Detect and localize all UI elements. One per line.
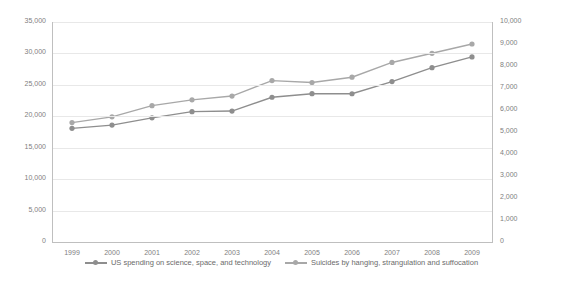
series-point[interactable]: [389, 60, 394, 65]
series-line: [72, 44, 472, 123]
series-point[interactable]: [309, 91, 314, 96]
x-axis-line: [52, 242, 492, 243]
y-axis-right-tick: 5,000: [500, 127, 540, 134]
legend-item-suicides[interactable]: Suicides by hanging, strangulation and s…: [285, 258, 478, 267]
x-axis-tick: 2006: [332, 249, 372, 256]
y-axis-left-tick: 0: [6, 237, 46, 244]
gridline: [52, 211, 492, 212]
y-axis-right-tick: 1,000: [500, 215, 540, 222]
gridline: [52, 85, 492, 86]
series-point[interactable]: [429, 65, 434, 70]
x-axis-tick: 2009: [452, 249, 492, 256]
series-point[interactable]: [349, 75, 354, 80]
series-lines: [52, 22, 492, 242]
series-point[interactable]: [189, 109, 194, 114]
gridline: [52, 116, 492, 117]
y-axis-left-line: [52, 22, 53, 243]
y-axis-left-tick: 5,000: [6, 206, 46, 213]
series-point[interactable]: [469, 41, 474, 46]
series-point[interactable]: [269, 78, 274, 83]
x-axis-tick: 2001: [132, 249, 172, 256]
series-point[interactable]: [69, 120, 74, 125]
legend-item-spending[interactable]: US spending on science, space, and techn…: [85, 258, 271, 267]
series-point[interactable]: [69, 126, 74, 131]
y-axis-left-tick: 10,000: [6, 174, 46, 181]
y-axis-right-tick: 10,000: [500, 17, 540, 24]
y-axis-left-tick: 20,000: [6, 111, 46, 118]
legend-label-spending: US spending on science, space, and techn…: [111, 258, 271, 267]
chart-container: 05,00010,00015,00020,00025,00030,00035,0…: [0, 0, 563, 282]
y-axis-right-tick: 9,000: [500, 39, 540, 46]
gridline: [52, 53, 492, 54]
legend-label-suicides: Suicides by hanging, strangulation and s…: [311, 258, 478, 267]
x-axis-tick: 2004: [252, 249, 292, 256]
y-axis-right-tick: 0: [500, 237, 540, 244]
y-axis-right-tick: 7,000: [500, 83, 540, 90]
y-axis-left-tick: 15,000: [6, 143, 46, 150]
gridline: [52, 22, 492, 23]
gridline: [52, 148, 492, 149]
x-axis-tick: 2008: [412, 249, 452, 256]
y-axis-right-tick: 4,000: [500, 149, 540, 156]
x-axis-tick: 2002: [172, 249, 212, 256]
y-axis-left-tick: 25,000: [6, 80, 46, 87]
chart-legend: US spending on science, space, and techn…: [0, 258, 563, 267]
series-point[interactable]: [469, 54, 474, 59]
x-axis-tick: 2007: [372, 249, 412, 256]
series-point[interactable]: [149, 103, 154, 108]
series-point[interactable]: [229, 93, 234, 98]
gridline: [52, 179, 492, 180]
legend-marker-spending: [85, 258, 107, 267]
x-axis-tick: 2003: [212, 249, 252, 256]
y-axis-left-tick: 35,000: [6, 17, 46, 24]
y-axis-right-tick: 3,000: [500, 171, 540, 178]
series-point[interactable]: [349, 91, 354, 96]
series-point[interactable]: [389, 79, 394, 84]
y-axis-right-tick: 2,000: [500, 193, 540, 200]
y-axis-right-tick: 8,000: [500, 61, 540, 68]
series-point[interactable]: [189, 97, 194, 102]
x-axis-tick: 1999: [52, 249, 92, 256]
y-axis-left-tick: 30,000: [6, 48, 46, 55]
x-axis-tick: 2000: [92, 249, 132, 256]
plot-area: 05,00010,00015,00020,00025,00030,00035,0…: [52, 22, 492, 242]
legend-marker-suicides: [285, 258, 307, 267]
series-point[interactable]: [109, 123, 114, 128]
x-axis-tick: 2005: [292, 249, 332, 256]
series-line: [72, 57, 472, 128]
series-point[interactable]: [229, 108, 234, 113]
y-axis-right-line: [492, 22, 493, 243]
y-axis-right-tick: 6,000: [500, 105, 540, 112]
series-point[interactable]: [269, 95, 274, 100]
